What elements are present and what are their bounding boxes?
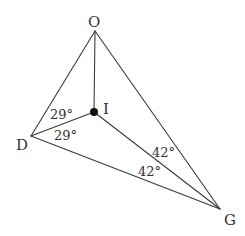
angle-label-idg: 29° [54,128,77,143]
point-label-d: D [16,136,28,154]
point-label-g: G [224,211,236,229]
incenter-point [90,108,98,116]
angle-label-odi: 29° [50,107,73,122]
segment-og [95,31,220,209]
segment-dg [31,136,220,209]
segment-gi [94,112,220,209]
segment-oi [94,31,95,112]
diagram-canvas: O I D G 29° 29° 42° 42° [0,0,245,236]
point-label-o: O [88,13,100,31]
angle-label-ogi: 42° [152,145,175,160]
angle-label-igd: 42° [138,164,161,179]
triangle-diagram: O I D G 29° 29° 42° 42° [0,0,245,236]
point-label-i: I [103,100,109,118]
